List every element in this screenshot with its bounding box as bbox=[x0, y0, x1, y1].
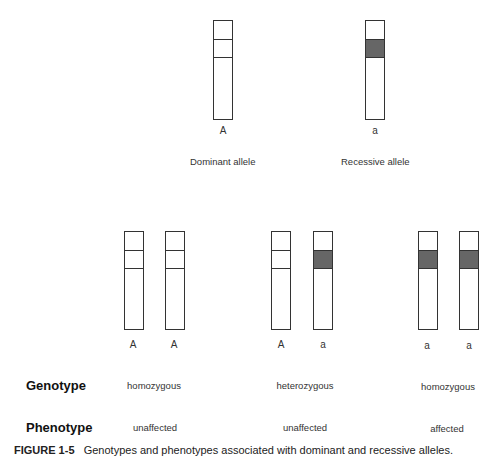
allele-band bbox=[272, 250, 290, 269]
allele-label: a bbox=[303, 339, 343, 350]
allele-label: A bbox=[261, 339, 301, 350]
allele-label: A bbox=[154, 339, 194, 350]
figure-number: FIGURE 1-5 bbox=[14, 444, 75, 456]
caption-recessive-allele: Recessive allele bbox=[341, 156, 410, 167]
chromosome-recessive bbox=[365, 20, 385, 120]
allele-band bbox=[125, 250, 143, 269]
genotype-value: heterozygous bbox=[245, 380, 365, 391]
allele-label-dominant: A bbox=[203, 125, 243, 136]
allele-band-dominant bbox=[214, 39, 232, 58]
allele-band-recessive bbox=[366, 39, 384, 58]
figure-caption: FIGURE 1-5 Genotypes and phenotypes asso… bbox=[14, 444, 453, 456]
chromosome-pair3-left bbox=[418, 231, 438, 330]
chromosome-pair2-right bbox=[313, 231, 333, 330]
chromosome-dominant bbox=[213, 20, 233, 120]
allele-band-shaded bbox=[460, 250, 478, 269]
genotype-value: homozygous bbox=[388, 381, 502, 392]
phenotype-value: affected bbox=[387, 423, 502, 434]
chromosome-pair2-left bbox=[271, 231, 291, 330]
allele-band-shaded bbox=[419, 250, 437, 269]
allele-label: A bbox=[113, 339, 153, 350]
chromosome-pair1-left bbox=[124, 231, 144, 330]
phenotype-value: unaffected bbox=[245, 422, 365, 433]
figure-caption-text: Genotypes and phenotypes associated with… bbox=[84, 444, 453, 456]
genotype-heading: Genotype bbox=[26, 378, 86, 393]
allele-label: a bbox=[407, 340, 447, 351]
allele-label-recessive: a bbox=[355, 125, 395, 136]
phenotype-value: unaffected bbox=[95, 422, 215, 433]
allele-label: a bbox=[449, 340, 489, 351]
chromosome-pair3-right bbox=[459, 231, 479, 330]
phenotype-heading: Phenotype bbox=[26, 420, 92, 435]
chromosome-pair1-right bbox=[165, 231, 185, 330]
caption-dominant-allele: Dominant allele bbox=[190, 156, 255, 167]
allele-band-shaded bbox=[314, 250, 332, 269]
allele-band bbox=[166, 250, 184, 269]
genotype-value: homozygous bbox=[94, 380, 214, 391]
